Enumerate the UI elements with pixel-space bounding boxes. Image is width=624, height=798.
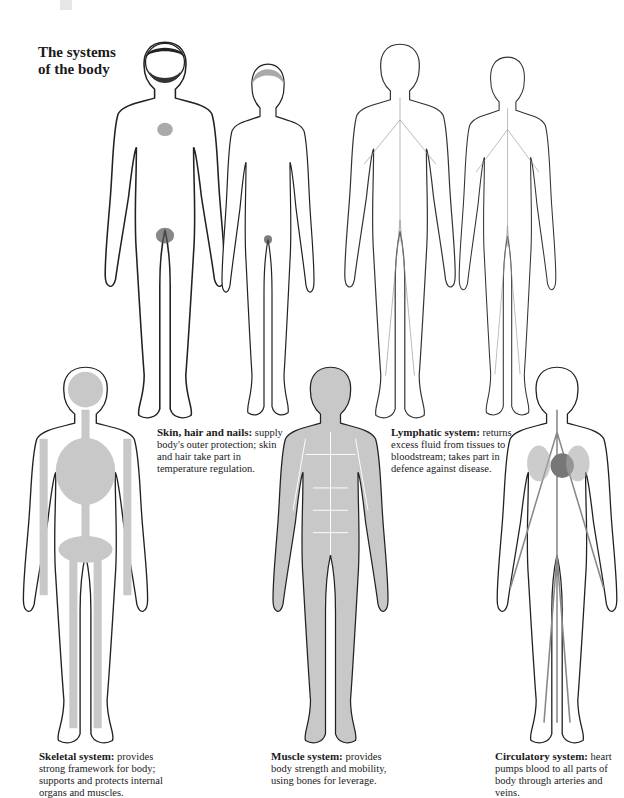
lymphatic-male-figure	[340, 42, 460, 420]
caption-heading: Skeletal system:	[39, 750, 114, 762]
caption-muscle: Muscle system: provides body strength an…	[271, 750, 401, 787]
circulatory-figure	[492, 365, 622, 745]
caption-circulatory: Circulatory system: heart pumps blood to…	[495, 750, 620, 798]
caption-skeletal: Skeletal system: provides strong framewo…	[39, 750, 169, 798]
caption-heading: Muscle system:	[271, 750, 343, 762]
caption-lymphatic: Lymphatic system: returns excess fluid f…	[391, 426, 516, 475]
caption-skin: Skin, hair and nails: supply body's oute…	[157, 426, 292, 475]
page-tab-marker	[60, 0, 72, 10]
female-skin-figure	[218, 62, 318, 417]
caption-heading: Circulatory system:	[495, 750, 588, 762]
caption-heading: Skin, hair and nails:	[157, 426, 252, 438]
male-skin-figure	[100, 40, 230, 420]
lymphatic-female-figure	[455, 55, 560, 417]
skeletal-figure	[18, 365, 153, 745]
caption-heading: Lymphatic system:	[391, 426, 480, 438]
muscle-figure	[268, 365, 393, 745]
